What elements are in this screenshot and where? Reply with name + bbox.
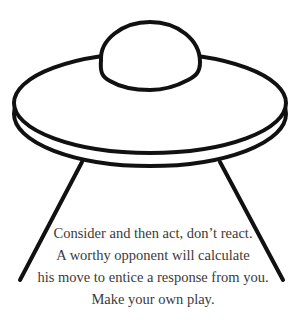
caption-line: his move to entice a response from you. (0, 266, 306, 288)
dome-icon (101, 22, 200, 90)
caption-line: A worthy opponent will calculate (0, 244, 306, 266)
caption-line: Consider and then act, don’t react. (0, 222, 306, 244)
caption-line: Make your own play. (0, 288, 306, 310)
caption: Consider and then act, don’t react. A wo… (0, 222, 306, 310)
